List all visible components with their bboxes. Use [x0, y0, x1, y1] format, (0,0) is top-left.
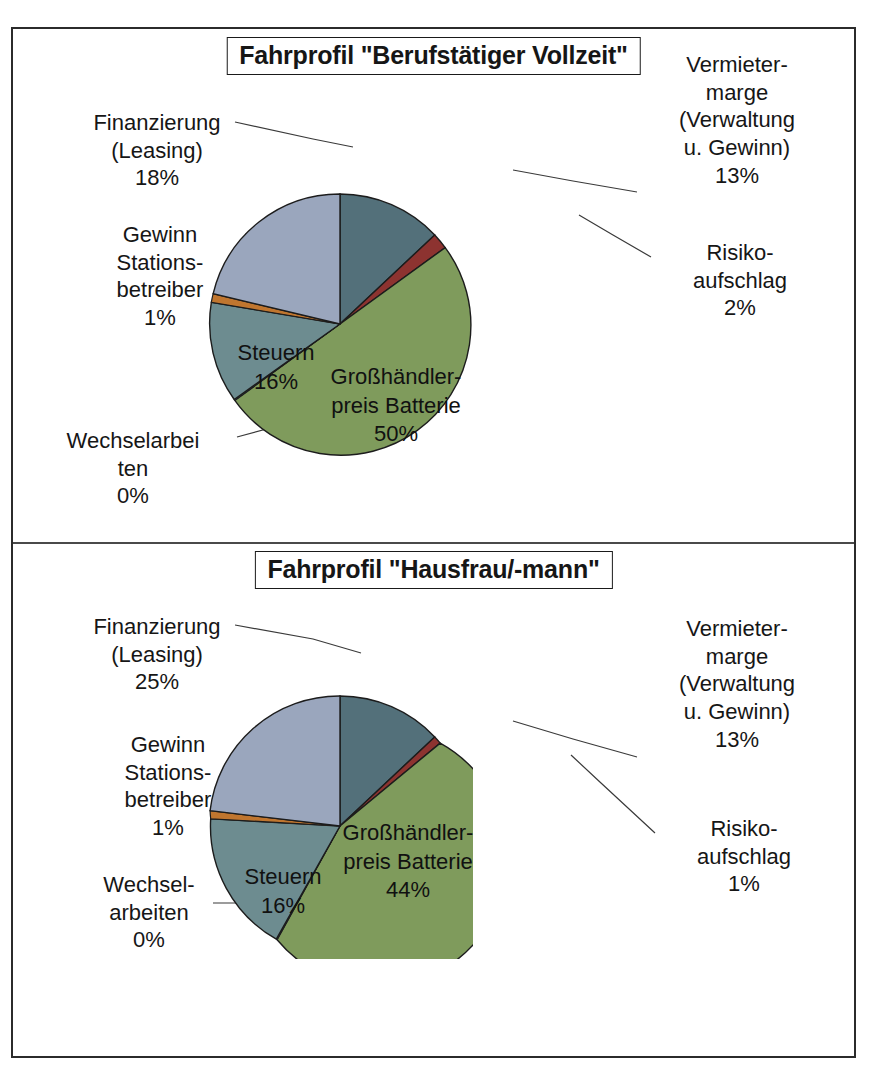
leader-vermietermarge-icon: [513, 170, 637, 192]
label-line: aufschlag: [649, 843, 839, 871]
chart-title-top: Fahrprofil "Berufstätiger Vollzeit": [226, 37, 641, 75]
pie-chart-bottom: Steuern 16% Großhändler- preis Batterie …: [207, 693, 473, 959]
label-line: (Leasing): [57, 137, 257, 165]
label-line: preis Batterie: [303, 392, 489, 421]
label-line: (Leasing): [57, 641, 257, 669]
label-line: 2%: [645, 294, 835, 322]
label-line: ten: [29, 455, 237, 483]
slice-finanzierung-leasing[interactable]: [210, 696, 340, 826]
pie-label-grosshandlerpreis-bottom: Großhändler- preis Batterie 44%: [315, 819, 501, 905]
label-line: 50%: [303, 420, 489, 449]
label-line: Risiko-: [649, 815, 839, 843]
label-line: 1%: [649, 870, 839, 898]
figure-frame: Fahrprofil "Berufstätiger Vollzeit" Fina…: [11, 27, 856, 1058]
label-line: Vermieter-: [631, 615, 843, 643]
pie-label-grosshandlerpreis-top: Großhändler- preis Batterie 50%: [303, 363, 489, 449]
chart-title-bottom: Fahrprofil "Hausfrau/-mann": [254, 551, 612, 589]
label-line: Finanzierung: [57, 109, 257, 137]
leader-risikoaufschlag-icon: [579, 215, 651, 257]
label-line: Risiko-: [645, 239, 835, 267]
label-wechselarbeiten-top: Wechselarbei ten 0%: [29, 427, 237, 510]
label-line: 13%: [631, 162, 843, 190]
label-line: (Verwaltung: [631, 670, 843, 698]
chart-panel-bottom: Fahrprofil "Hausfrau/-mann" Finanzierung…: [13, 543, 854, 1056]
chart-panel-top: Fahrprofil "Berufstätiger Vollzeit" Fina…: [13, 29, 854, 542]
label-risikoaufschlag-top: Risiko- aufschlag 2%: [645, 239, 835, 322]
leader-vermietermarge-icon: [513, 721, 637, 757]
label-line: 18%: [57, 164, 257, 192]
label-line: 25%: [57, 668, 257, 696]
label-risikoaufschlag-bottom: Risiko- aufschlag 1%: [649, 815, 839, 898]
label-line: Finanzierung: [57, 613, 257, 641]
label-vermietermarge-bottom: Vermieter- marge (Verwaltung u. Gewinn) …: [631, 615, 843, 754]
label-finanzierung-bottom: Finanzierung (Leasing) 25%: [57, 613, 257, 696]
label-finanzierung-top: Finanzierung (Leasing) 18%: [57, 109, 257, 192]
label-line: marge: [631, 643, 843, 671]
label-line: preis Batterie: [315, 848, 501, 877]
label-line: Wechselarbei: [29, 427, 237, 455]
label-line: 13%: [631, 726, 843, 754]
label-line: Großhändler-: [303, 363, 489, 392]
label-line: 0%: [29, 482, 237, 510]
label-line: u. Gewinn): [631, 134, 843, 162]
label-vermietermarge-top: Vermieter- marge (Verwaltung u. Gewinn) …: [631, 51, 843, 190]
label-line: 44%: [315, 876, 501, 905]
label-line: Vermieter-: [631, 51, 843, 79]
label-line: aufschlag: [645, 267, 835, 295]
pie-chart-top: Steuern 16% Großhändler- preis Batterie …: [207, 191, 473, 457]
label-line: u. Gewinn): [631, 698, 843, 726]
label-line: marge: [631, 79, 843, 107]
label-line: Großhändler-: [315, 819, 501, 848]
leader-risikoaufschlag-icon: [571, 755, 655, 833]
label-line: (Verwaltung: [631, 106, 843, 134]
